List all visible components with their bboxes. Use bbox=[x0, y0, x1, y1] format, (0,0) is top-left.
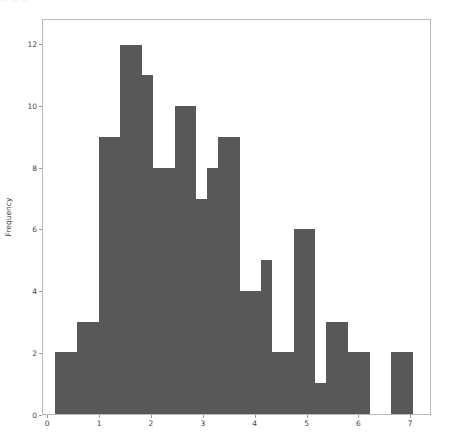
x-tick-label: 6 bbox=[356, 419, 361, 428]
histogram-bar bbox=[99, 137, 121, 414]
x-tick-label: 3 bbox=[200, 419, 205, 428]
y-tick-label: 10 bbox=[0, 101, 37, 110]
histogram-bar bbox=[218, 137, 240, 414]
y-tick-label: 8 bbox=[0, 163, 37, 172]
histogram-bar bbox=[272, 352, 294, 414]
x-tick-label: 4 bbox=[252, 419, 257, 428]
y-tick-label: 2 bbox=[0, 349, 37, 358]
top-edge-artifact: · · — — bbox=[0, 0, 453, 10]
x-tick-mark bbox=[151, 415, 152, 418]
x-tick-mark bbox=[47, 415, 48, 418]
y-tick-label: 0 bbox=[0, 411, 37, 420]
plot-area bbox=[42, 19, 431, 415]
x-tick-mark bbox=[255, 415, 256, 418]
histogram-bar bbox=[240, 291, 262, 414]
histogram-bar bbox=[142, 75, 153, 414]
histogram-bar bbox=[207, 168, 218, 414]
histogram-bar bbox=[196, 199, 207, 414]
y-tick-label: 6 bbox=[0, 225, 37, 234]
top-edge-artifact-text: · · — — bbox=[0, 0, 28, 5]
histogram-bars bbox=[43, 20, 430, 414]
histogram-bar bbox=[55, 352, 77, 414]
x-tick-mark bbox=[203, 415, 204, 418]
histogram-bar bbox=[153, 168, 175, 414]
histogram-bar bbox=[391, 352, 413, 414]
x-tick-mark bbox=[410, 415, 411, 418]
x-tick-mark bbox=[307, 415, 308, 418]
y-tick-label: 4 bbox=[0, 287, 37, 296]
histogram-bar bbox=[120, 45, 142, 414]
histogram-bar bbox=[175, 106, 197, 414]
histogram-bar bbox=[261, 260, 272, 414]
histogram-bar bbox=[294, 229, 316, 414]
x-tick-label: 2 bbox=[149, 419, 154, 428]
x-tick-mark bbox=[99, 415, 100, 418]
histogram-bar bbox=[348, 352, 370, 414]
x-tick-label: 0 bbox=[45, 419, 50, 428]
y-tick-mark bbox=[39, 415, 42, 416]
x-tick-mark bbox=[358, 415, 359, 418]
histogram-bar bbox=[77, 322, 99, 414]
histogram-bar bbox=[326, 322, 348, 414]
x-tick-label: 1 bbox=[97, 419, 102, 428]
x-tick-label: 5 bbox=[304, 419, 309, 428]
figure-canvas: · · — — Frequency 024681012 01234567 bbox=[0, 0, 453, 443]
histogram-bar bbox=[315, 383, 326, 414]
y-tick-label: 12 bbox=[0, 39, 37, 48]
x-tick-label: 7 bbox=[408, 419, 413, 428]
